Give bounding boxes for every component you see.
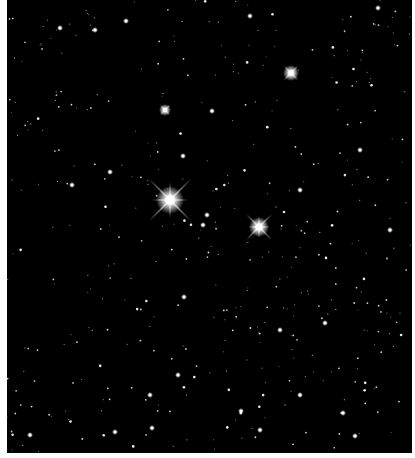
star-field-image	[0, 0, 415, 458]
